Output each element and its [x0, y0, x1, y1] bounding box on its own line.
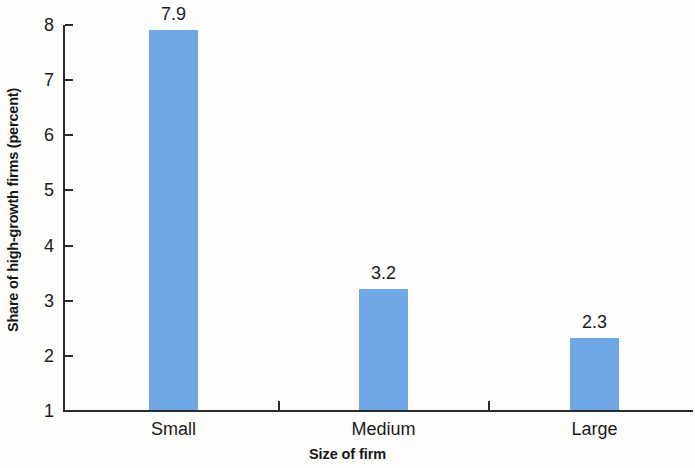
y-axis-tick-mark [65, 355, 73, 357]
y-axis-tick-label: 3 [32, 292, 54, 310]
y-axis-tick-label: 4 [32, 237, 54, 255]
y-axis-tick-label: 1 [32, 402, 54, 420]
bar [570, 338, 619, 410]
x-axis-category-label: Small [104, 420, 244, 438]
y-axis-tick-label: 8 [32, 16, 54, 34]
y-axis-tick-label: 7 [32, 71, 54, 89]
y-axis-line [63, 25, 65, 411]
y-axis-tick-mark [65, 189, 73, 191]
y-axis-tick-mark [65, 300, 73, 302]
x-axis-tick-mark [278, 401, 280, 410]
x-axis-category-label: Large [525, 420, 665, 438]
bar [149, 30, 198, 410]
x-axis-line [63, 410, 693, 412]
bar-value-label: 3.2 [344, 264, 424, 282]
y-axis-tick-label: 5 [32, 181, 54, 199]
y-axis-tick-mark [65, 245, 73, 247]
bar-chart: Share of high-growth firms (percent) 123… [0, 0, 695, 468]
y-axis-tick-mark [65, 134, 73, 136]
plot-area [63, 25, 693, 411]
y-axis-tick-mark [65, 24, 73, 26]
y-axis-tick-mark [65, 79, 73, 81]
x-axis-tick-mark [488, 401, 490, 410]
y-axis-tick-labels: 12345678 [10, 0, 54, 468]
bar [359, 289, 408, 410]
bar-value-label: 2.3 [555, 313, 635, 331]
y-axis-tick-label: 2 [32, 347, 54, 365]
y-axis-tick-label: 6 [32, 126, 54, 144]
bar-value-label: 7.9 [134, 5, 214, 23]
x-axis-title: Size of firm [0, 447, 695, 462]
x-axis-category-label: Medium [314, 420, 454, 438]
